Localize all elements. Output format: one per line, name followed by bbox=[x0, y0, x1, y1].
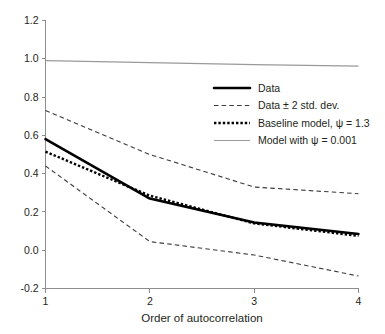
x-tick-label: 1 bbox=[43, 295, 49, 307]
x-axis-title: Order of autocorrelation bbox=[141, 312, 262, 324]
x-tick-label: 2 bbox=[147, 295, 153, 307]
legend-item-label: Baseline model, ψ = 1.3 bbox=[258, 117, 370, 129]
x-tick-label: 3 bbox=[251, 295, 257, 307]
y-tick-label: 0.6 bbox=[24, 129, 39, 141]
y-tick-label: 0.2 bbox=[24, 206, 39, 218]
y-tick-label: 0.4 bbox=[24, 167, 39, 179]
autocorrelation-chart: 1.21.00.80.60.40.20.0-0.21234Order of au… bbox=[0, 0, 385, 334]
y-tick-label: 0.8 bbox=[24, 91, 39, 103]
y-tick-label: 1.2 bbox=[24, 14, 39, 26]
y-tick-label: 1.0 bbox=[24, 52, 39, 64]
legend-item-label: Data ± 2 std. dev. bbox=[258, 99, 339, 111]
series-line bbox=[46, 166, 359, 276]
chart-legend: DataData ± 2 std. dev.Baseline model, ψ … bbox=[214, 82, 370, 147]
legend-item-label: Data bbox=[258, 82, 280, 94]
y-tick-label: -0.2 bbox=[20, 282, 38, 294]
legend-item-label: Model with ψ = 0.001 bbox=[258, 134, 357, 146]
series-line bbox=[46, 139, 359, 234]
x-tick-label: 4 bbox=[356, 295, 362, 307]
y-tick-label: 0.0 bbox=[24, 244, 39, 256]
series-line bbox=[46, 61, 359, 66]
chart-plot-area: 1.21.00.80.60.40.20.0-0.21234Order of au… bbox=[0, 0, 385, 334]
series-line bbox=[46, 152, 359, 236]
